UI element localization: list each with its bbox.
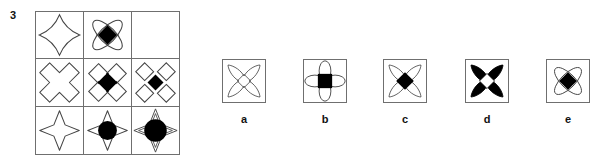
four-petals-diamond-outline-icon [223, 60, 265, 102]
answer-option-c-label: c [383, 113, 427, 125]
four-petals-black-diamond-icon [384, 60, 426, 102]
matrix-reasoning-puzzle: 3 [0, 0, 602, 164]
answer-option-a-box[interactable] [222, 59, 266, 103]
answer-option-e-box[interactable] [546, 59, 590, 103]
answer-option-e[interactable]: e [546, 59, 590, 103]
answer-option-b[interactable]: b [303, 59, 347, 103]
answer-option-a[interactable]: a [222, 59, 266, 103]
answer-option-a-label: a [222, 113, 266, 125]
answer-option-b-box[interactable] [303, 59, 347, 103]
four-filled-petals-diamond-outline-icon [466, 60, 508, 102]
answer-option-b-label: b [303, 113, 347, 125]
four-ellipses-black-square-icon [304, 60, 346, 102]
crossed-ellipses-black-diamond-icon [547, 60, 589, 102]
answer-options: a b c [0, 0, 602, 164]
answer-option-d-label: d [465, 113, 509, 125]
answer-option-d[interactable]: d [465, 59, 509, 103]
answer-option-d-box[interactable] [465, 59, 509, 103]
answer-option-c[interactable]: c [383, 59, 427, 103]
answer-option-e-label: e [546, 113, 590, 125]
answer-option-c-box[interactable] [383, 59, 427, 103]
